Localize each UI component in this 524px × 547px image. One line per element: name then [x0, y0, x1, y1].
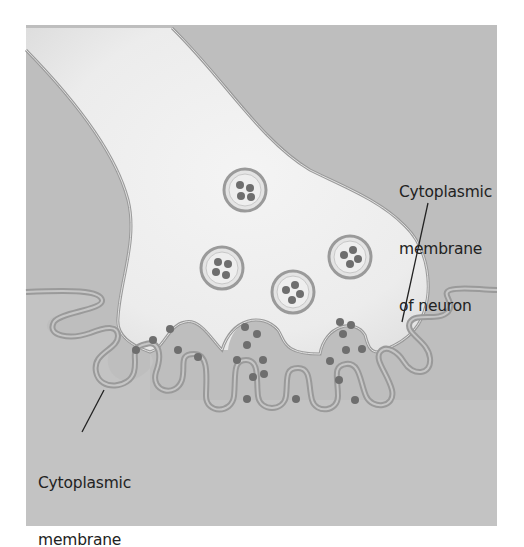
muscle-membrane-label-line1: Cytoplasmic	[38, 474, 142, 493]
neuron-membrane-label-line1: Cytoplasmic	[399, 183, 492, 202]
neuron-membrane-label-line2: membrane	[399, 240, 492, 259]
muscle-membrane-label-line2: membrane	[38, 531, 142, 547]
vesicle	[201, 247, 243, 289]
vesicle	[272, 271, 314, 313]
vesicle	[329, 236, 371, 278]
vesicle	[224, 169, 266, 211]
neuron-membrane-label: Cytoplasmic membrane of neuron	[399, 145, 492, 335]
muscle-membrane-label: Cytoplasmic membrane of muscle cell	[38, 436, 142, 547]
neuron-membrane-label-line3: of neuron	[399, 297, 492, 316]
